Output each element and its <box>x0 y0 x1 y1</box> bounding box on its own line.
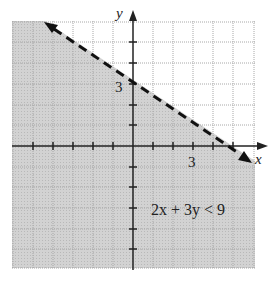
y-tick-label-3: 3 <box>115 79 123 95</box>
y-axis-label: y <box>114 5 123 21</box>
x-axis-label: x <box>254 151 262 167</box>
x-axis-arrow-icon <box>257 142 268 150</box>
x-tick-label-3: 3 <box>188 154 196 170</box>
graph: y x 3 3 2x + 3y < 9 <box>0 0 276 281</box>
inequality-label: 2x + 3y < 9 <box>151 201 225 219</box>
y-axis-arrow-icon <box>129 10 137 21</box>
